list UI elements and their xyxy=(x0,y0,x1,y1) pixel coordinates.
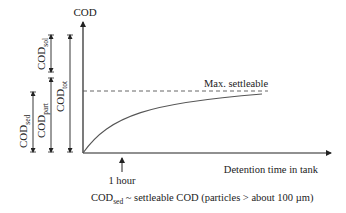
cod-part-label: CODpart xyxy=(35,102,50,138)
caption: CODsed ~ settleable COD (particles > abo… xyxy=(91,192,314,206)
cod-tot-label: CODtot xyxy=(54,80,69,112)
settleable-curve xyxy=(83,94,262,153)
max-settleable-label: Max. settleable xyxy=(204,78,268,89)
cod-sol-label: CODsol xyxy=(35,38,50,70)
cod-settling-diagram: COD Detention time in tank Max. settleab… xyxy=(0,0,346,213)
x-axis-label: Detention time in tank xyxy=(224,164,319,175)
y-axis-label: COD xyxy=(73,6,96,18)
one-hour-label: 1 hour xyxy=(108,175,136,186)
cod-sed-label: CODsed xyxy=(17,115,32,148)
